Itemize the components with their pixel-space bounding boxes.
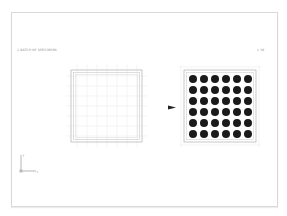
axis-y-label: y bbox=[23, 153, 25, 157]
axis-x-label: x bbox=[37, 170, 39, 174]
arrow-right-icon bbox=[152, 106, 176, 110]
specimen-dots bbox=[189, 75, 252, 138]
filled-plate bbox=[179, 65, 261, 147]
diagram-canvas: y x bbox=[0, 0, 287, 216]
empty-plate bbox=[66, 65, 147, 147]
axis-indicator-icon: y x bbox=[20, 153, 39, 174]
